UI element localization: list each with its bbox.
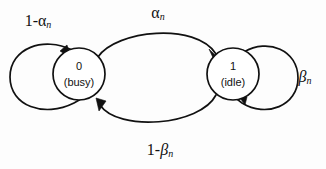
busy-to-idle-path (98, 33, 216, 57)
edge-label-busy-to-idle: αn (151, 4, 164, 23)
edge-label-idle-to-busy: 1-βn (147, 141, 173, 160)
state-1-label: 1 (230, 60, 236, 72)
state-0-label: 0 (76, 60, 82, 72)
edge-label-self-loop-busy-prefix: 1- (25, 12, 38, 29)
edge-label-busy-to-idle-subscript: n (160, 11, 165, 22)
state-1-sublabel: (idle) (221, 76, 245, 88)
node-state-1[interactable]: 1 (idle) (207, 48, 259, 100)
markov-chain-diagram: 0 (busy) 1 (idle) 1-αn αn 1-βn βn (0, 0, 326, 169)
edge-label-idle-to-busy-subscript: n (168, 148, 173, 159)
edge-label-self-loop-idle-subscript: n (306, 75, 311, 86)
edge-label-idle-to-busy-prefix: 1- (147, 141, 160, 158)
edge-label-self-loop-busy: 1-αn (25, 12, 52, 31)
edge-label-idle-to-busy-greek: β (159, 141, 168, 159)
edge-label-self-loop-idle-greek: β (298, 68, 307, 86)
idle-to-busy-path (100, 95, 216, 122)
state-0-circle (53, 48, 105, 100)
edge-label-self-loop-busy-subscript: n (46, 19, 51, 30)
edge-busy-to-idle (98, 33, 220, 62)
edge-idle-to-busy (96, 95, 216, 122)
node-state-0[interactable]: 0 (busy) (53, 48, 105, 100)
state-1-circle (207, 48, 259, 100)
edge-label-self-loop-idle: βn (298, 68, 312, 87)
state-0-sublabel: (busy) (64, 76, 95, 88)
state-diagram-container: 0 (busy) 1 (idle) 1-αn αn 1-βn βn (0, 0, 326, 169)
